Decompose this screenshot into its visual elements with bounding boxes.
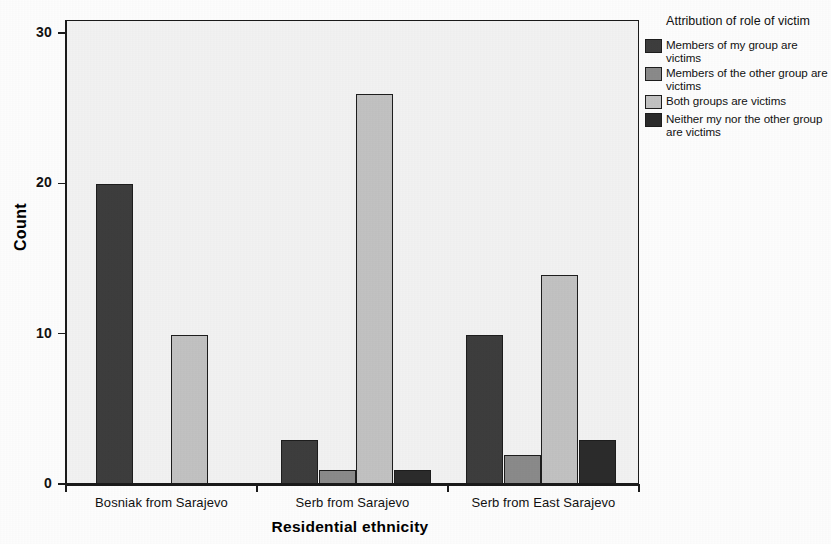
bar <box>96 184 133 483</box>
legend: Attribution of role of victim Members of… <box>645 14 831 140</box>
y-axis-tick-label: 30 <box>36 24 52 40</box>
y-axis-tick-label: 20 <box>36 174 52 190</box>
bar <box>541 275 578 483</box>
y-axis-line <box>65 20 67 485</box>
legend-swatch-icon <box>645 95 662 109</box>
x-axis-tick-label: Serb from East Sarajevo <box>449 495 639 510</box>
bar <box>171 335 208 483</box>
bar <box>394 470 431 483</box>
legend-item[interactable]: Neither my nor the other group are victi… <box>645 112 831 138</box>
legend-swatch-icon <box>645 67 662 81</box>
x-axis-tick <box>638 484 640 492</box>
bar <box>579 440 616 483</box>
bar <box>281 440 318 483</box>
legend-item-list: Members of my group are victimsMembers o… <box>645 38 831 138</box>
y-axis-tick-label: 0 <box>44 475 52 491</box>
bar <box>504 455 541 483</box>
x-axis-line <box>65 484 640 486</box>
y-axis-tick <box>58 333 65 335</box>
y-axis-tick <box>58 483 65 485</box>
x-axis-tick-label: Bosniak from Sarajevo <box>67 495 257 510</box>
bar <box>466 335 503 483</box>
legend-item-label: Neither my nor the other group are victi… <box>666 112 831 138</box>
plot-area <box>66 20 639 484</box>
legend-item-label: Members of the other group are victims <box>666 66 831 92</box>
x-axis-title: Residential ethnicity <box>0 518 700 536</box>
y-axis-title: Count <box>12 203 30 251</box>
legend-item[interactable]: Members of my group are victims <box>645 38 831 64</box>
x-axis-tick <box>65 484 67 492</box>
legend-item-label: Members of my group are victims <box>666 38 831 64</box>
bar <box>356 94 393 483</box>
x-axis-tick-label: Serb from Sarajevo <box>258 495 448 510</box>
x-axis-tick <box>256 484 258 492</box>
legend-item[interactable]: Members of the other group are victims <box>645 66 831 92</box>
y-axis-tick-label: 10 <box>36 325 52 341</box>
legend-swatch-icon <box>645 39 662 53</box>
legend-title: Attribution of role of victim <box>645 14 831 29</box>
y-axis-tick <box>58 183 65 185</box>
y-axis-tick <box>58 32 65 34</box>
legend-swatch-icon <box>645 113 662 127</box>
bar <box>319 470 356 483</box>
bars-layer <box>67 21 638 483</box>
chart-container: 0102030 Count Bosniak from SarajevoSerb … <box>0 0 831 544</box>
legend-item-label: Both groups are victims <box>666 94 786 107</box>
legend-item[interactable]: Both groups are victims <box>645 94 831 110</box>
x-axis-tick <box>447 484 449 492</box>
